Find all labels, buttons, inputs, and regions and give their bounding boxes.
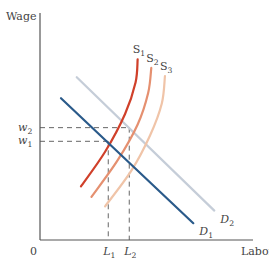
x-axis-label: Labor bbox=[241, 245, 269, 258]
labor-market-chart: Wage Labor 0 D1D2S1S2S3w2w1L1L2 bbox=[0, 0, 269, 270]
label-L1: L1 bbox=[102, 245, 115, 260]
label-L2: L2 bbox=[123, 245, 136, 260]
series-layer bbox=[61, 59, 214, 223]
guides-layer bbox=[40, 128, 129, 240]
series-d1-curve bbox=[61, 98, 193, 223]
label-d2: D2 bbox=[219, 213, 234, 228]
label-s3: S3 bbox=[160, 60, 173, 75]
label-d1: D1 bbox=[198, 225, 213, 240]
origin-label: 0 bbox=[30, 245, 37, 258]
labels-layer: D1D2S1S2S3w2w1L1L2 bbox=[18, 43, 234, 260]
y-axis-label: Wage bbox=[6, 10, 36, 23]
label-s2: S2 bbox=[146, 52, 159, 67]
label-w1: w1 bbox=[18, 134, 32, 149]
label-s1: S1 bbox=[133, 43, 145, 58]
series-s2-curve bbox=[91, 68, 151, 197]
